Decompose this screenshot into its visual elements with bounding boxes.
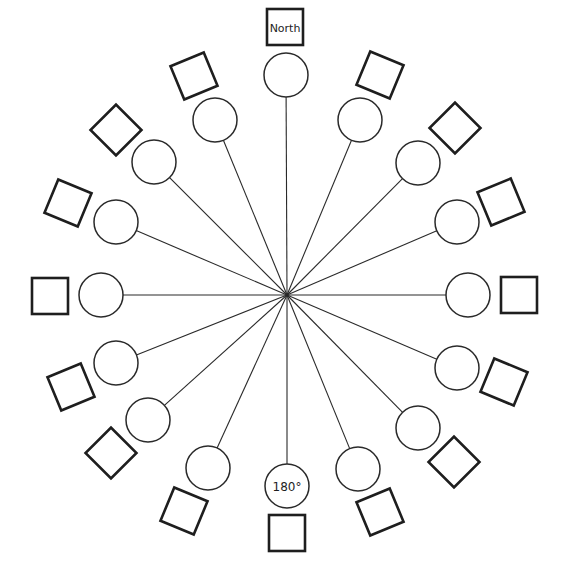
square-node bbox=[356, 488, 403, 535]
square-node bbox=[429, 437, 480, 488]
circle-shape bbox=[94, 200, 138, 244]
circle-node bbox=[132, 140, 176, 184]
circle-node bbox=[446, 273, 490, 317]
circle-shape bbox=[94, 341, 138, 385]
square-shape bbox=[44, 179, 91, 226]
circle-shape bbox=[79, 273, 123, 317]
square-shape bbox=[47, 363, 94, 410]
circle-shape bbox=[338, 98, 382, 142]
square-node bbox=[160, 487, 207, 534]
circle-node bbox=[338, 98, 382, 142]
circle-shape bbox=[396, 406, 440, 450]
circle-shape bbox=[186, 446, 230, 490]
square-node bbox=[477, 178, 524, 225]
circle-shape bbox=[126, 398, 170, 442]
circle-node bbox=[94, 341, 138, 385]
circle-label: 180° bbox=[273, 480, 302, 494]
circle-node bbox=[94, 200, 138, 244]
circle-node bbox=[79, 273, 123, 317]
spoke-line bbox=[287, 295, 403, 412]
square-node bbox=[44, 179, 91, 226]
circle-node bbox=[336, 447, 380, 491]
circle-shape bbox=[396, 141, 440, 185]
square-shape bbox=[356, 488, 403, 535]
square-node: North bbox=[267, 9, 303, 45]
spoke-line bbox=[136, 295, 287, 355]
square-shape bbox=[269, 515, 305, 551]
square-shape bbox=[160, 487, 207, 534]
square-shape bbox=[91, 105, 142, 156]
square-node bbox=[356, 51, 403, 98]
circle-node bbox=[264, 53, 308, 97]
square-shape bbox=[480, 358, 527, 405]
square-shape bbox=[477, 178, 524, 225]
square-shape bbox=[32, 278, 68, 314]
square-node bbox=[430, 103, 481, 154]
spoke-line bbox=[170, 178, 287, 295]
square-shape bbox=[430, 103, 481, 154]
circle-shape bbox=[435, 200, 479, 244]
square-node bbox=[91, 105, 142, 156]
circle-shape bbox=[435, 346, 479, 390]
spoke-line bbox=[217, 295, 287, 448]
circle-node bbox=[126, 398, 170, 442]
square-shape bbox=[356, 51, 403, 98]
circle-shape bbox=[132, 140, 176, 184]
circle-node bbox=[396, 406, 440, 450]
circle-node bbox=[186, 446, 230, 490]
square-shape bbox=[170, 52, 217, 99]
square-node bbox=[501, 277, 537, 313]
square-node bbox=[47, 363, 94, 410]
circle-node bbox=[396, 141, 440, 185]
square-node bbox=[170, 52, 217, 99]
circle-shape bbox=[336, 447, 380, 491]
square-node bbox=[86, 428, 137, 479]
circle-node: 180° bbox=[265, 464, 309, 508]
square-node bbox=[269, 515, 305, 551]
square-shape bbox=[86, 428, 137, 479]
spoke-line bbox=[287, 179, 403, 295]
circle-node bbox=[193, 98, 237, 142]
square-label: North bbox=[270, 22, 301, 35]
circle-shape bbox=[193, 98, 237, 142]
circle-shape bbox=[264, 53, 308, 97]
circle-node bbox=[435, 200, 479, 244]
square-node bbox=[480, 358, 527, 405]
spoke-line bbox=[164, 295, 287, 405]
spoke-line bbox=[286, 97, 287, 295]
square-node bbox=[32, 278, 68, 314]
square-shape bbox=[501, 277, 537, 313]
circle-shape bbox=[446, 273, 490, 317]
circles-layer: 180° bbox=[79, 53, 490, 508]
compass-radial-diagram: 180° North bbox=[0, 0, 568, 588]
square-shape bbox=[429, 437, 480, 488]
circle-node bbox=[435, 346, 479, 390]
